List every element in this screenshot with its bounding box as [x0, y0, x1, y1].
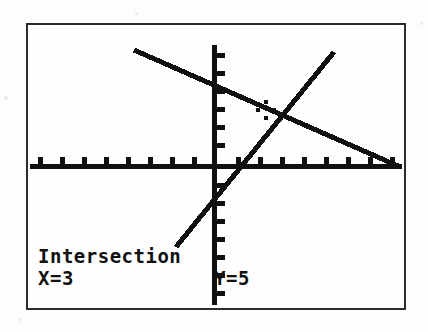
scanned-page: Intersection X=3 Y=5	[0, 0, 428, 332]
intersection-title: Intersection	[38, 246, 181, 266]
scan-speck	[18, 318, 21, 321]
y-value-readout: Y=5	[214, 268, 250, 288]
series-line-decreasing	[134, 50, 398, 166]
scan-speck	[4, 96, 8, 100]
x-value-readout: X=3	[38, 268, 74, 288]
scan-speck	[420, 22, 423, 25]
scan-speck	[135, 12, 138, 15]
calculator-screen: Intersection X=3 Y=5	[26, 23, 406, 310]
